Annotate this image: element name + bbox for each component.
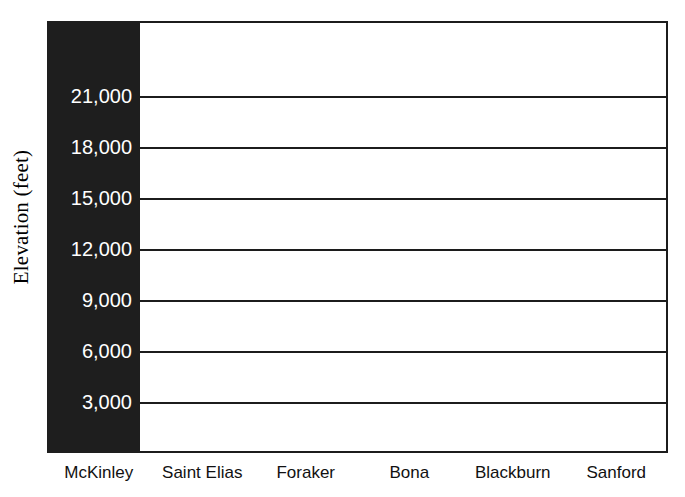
- x-axis-label-blackburn: Blackburn: [461, 458, 565, 488]
- y-tick-mark: [140, 249, 158, 251]
- y-tick-mark: [140, 198, 158, 200]
- y-tick-mark: [140, 96, 158, 98]
- y-tick-mark: [140, 147, 158, 149]
- y-tick-mark: [140, 351, 158, 353]
- x-axis-labels: McKinleySaint EliasForakerBonaBlackburnS…: [47, 458, 668, 492]
- y-tick-mark: [140, 402, 158, 404]
- y-tick-label: 9,000: [82, 290, 132, 310]
- bar-chart: Elevation (feet) 3,0006,0009,00012,00015…: [0, 0, 685, 497]
- y-tick-label: 6,000: [82, 341, 132, 361]
- x-axis-label-saint-elias: Saint Elias: [151, 458, 255, 488]
- y-axis-title: Elevation (feet): [6, 117, 36, 317]
- y-tick-label: 18,000: [71, 137, 132, 157]
- plot-inner: [49, 23, 666, 451]
- x-axis-label-bona: Bona: [358, 458, 462, 488]
- y-tick-mark: [140, 300, 158, 302]
- x-axis-label-sanford: Sanford: [565, 458, 669, 488]
- y-tick-label: 3,000: [82, 392, 132, 412]
- x-axis-label-mckinley: McKinley: [47, 458, 151, 488]
- y-tick-label-band: 3,0006,0009,00012,00015,00018,00021,000: [47, 21, 140, 453]
- x-axis-label-foraker: Foraker: [254, 458, 358, 488]
- y-tick-label: 21,000: [71, 86, 132, 106]
- y-tick-label: 12,000: [71, 239, 132, 259]
- plot-area: [47, 21, 668, 453]
- y-tick-label: 15,000: [71, 188, 132, 208]
